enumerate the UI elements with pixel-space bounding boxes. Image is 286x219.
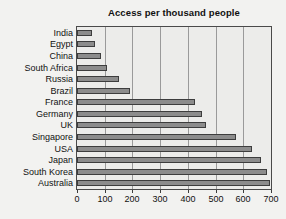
- category-label: France: [45, 97, 73, 107]
- bar: [77, 146, 252, 152]
- category-label: India: [53, 28, 73, 38]
- category-label: UK: [60, 120, 73, 130]
- bar: [77, 111, 202, 117]
- bar: [77, 65, 107, 71]
- gridline: [160, 27, 161, 189]
- bar: [77, 134, 236, 140]
- x-tick-label: 200: [124, 194, 139, 204]
- category-label: China: [49, 51, 73, 61]
- x-tick-mark: [271, 190, 272, 193]
- category-label: Japan: [48, 155, 73, 165]
- category-label: Germany: [36, 109, 73, 119]
- gridline: [216, 27, 217, 189]
- bar: [77, 157, 261, 163]
- x-tick-label: 600: [235, 194, 250, 204]
- x-tick-label: 300: [152, 194, 167, 204]
- x-axis: 0100200300400500600700: [76, 190, 272, 210]
- gridline: [132, 27, 133, 189]
- bar: [77, 41, 95, 47]
- x-tick-mark: [188, 190, 189, 193]
- x-tick-mark: [132, 190, 133, 193]
- category-label: South Africa: [24, 63, 73, 73]
- x-tick-mark: [105, 190, 106, 193]
- bar: [77, 30, 92, 36]
- bar: [77, 88, 130, 94]
- x-tick-mark: [243, 190, 244, 193]
- bar: [77, 169, 267, 175]
- x-tick-mark: [77, 190, 78, 193]
- category-label: Singapore: [32, 132, 73, 142]
- x-tick-label: 400: [180, 194, 195, 204]
- category-label: South Korea: [23, 167, 73, 177]
- gridline: [243, 27, 244, 189]
- category-axis: IndiaEgyptChinaSouth AfricaRussiaBrazilF…: [0, 26, 73, 190]
- category-label: Australia: [38, 178, 73, 188]
- bar: [77, 99, 195, 105]
- x-tick-mark: [160, 190, 161, 193]
- chart-title: Access per thousand people: [76, 7, 272, 18]
- x-tick-mark: [216, 190, 217, 193]
- bar: [77, 122, 206, 128]
- x-tick-label: 100: [97, 194, 112, 204]
- bar: [77, 76, 119, 82]
- bar: [77, 180, 270, 186]
- x-tick-label: 0: [74, 194, 79, 204]
- x-tick-label: 500: [208, 194, 223, 204]
- bar-chart: Access per thousand people IndiaEgyptChi…: [0, 0, 286, 219]
- plot-area: [76, 26, 272, 190]
- gridline: [188, 27, 189, 189]
- x-tick-label: 700: [263, 194, 278, 204]
- category-label: Russia: [45, 74, 73, 84]
- category-label: USA: [54, 144, 73, 154]
- category-label: Egypt: [50, 39, 73, 49]
- bar: [77, 53, 101, 59]
- gridline: [105, 27, 106, 189]
- category-label: Brazil: [50, 86, 73, 96]
